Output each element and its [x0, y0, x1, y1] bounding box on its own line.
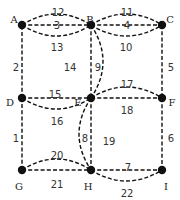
- graph-diagram: 12345678910111213141516171819202122 ABCD…: [0, 0, 180, 200]
- node-label: E: [74, 97, 81, 108]
- edge-label: 16: [51, 116, 64, 127]
- edge-label: 14: [64, 62, 77, 73]
- edge-label: 1: [13, 133, 19, 144]
- edge-label: 18: [121, 105, 134, 116]
- edge-label: 20: [51, 150, 64, 161]
- edge-label: 9: [95, 62, 101, 73]
- edge-label: 11: [121, 7, 134, 18]
- edge-label: 6: [168, 133, 174, 144]
- edge-label: 7: [125, 162, 131, 173]
- edge-label: 15: [49, 89, 62, 100]
- node-label: D: [6, 97, 14, 108]
- edge-label: 13: [51, 42, 64, 53]
- node-F: [158, 94, 166, 102]
- node-D: [18, 94, 26, 102]
- node-G: [18, 166, 26, 174]
- node-H: [87, 166, 95, 174]
- node-A: [18, 21, 26, 29]
- node-label: F: [169, 97, 176, 108]
- edge-label: 2: [13, 62, 19, 73]
- node-label: G: [15, 181, 23, 192]
- edge-label: 3: [54, 20, 60, 31]
- edge-20: [22, 159, 91, 170]
- edge-label: 10: [120, 42, 133, 53]
- edge-label: 22: [121, 188, 134, 199]
- edge-label: 8: [82, 133, 88, 144]
- edge-label: 17: [121, 79, 134, 90]
- node-label: H: [84, 181, 93, 192]
- node-label: A: [9, 14, 18, 25]
- edge-label: 5: [168, 62, 174, 73]
- edge-label: 4: [124, 20, 130, 31]
- node-C: [158, 21, 166, 29]
- node-I: [158, 166, 166, 174]
- node-label: I: [164, 181, 168, 192]
- edge-label: 21: [51, 179, 64, 190]
- edge-label: 19: [103, 136, 116, 147]
- node-E: [87, 94, 95, 102]
- node-label: C: [166, 14, 174, 25]
- node-label: B: [86, 14, 93, 25]
- edge-label: 12: [52, 7, 65, 18]
